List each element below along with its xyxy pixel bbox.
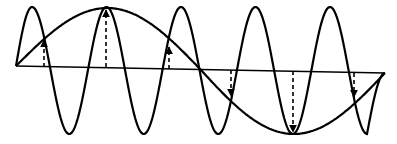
carrier-wave — [16, 7, 385, 134]
wave-diagram — [0, 0, 397, 144]
wave-diagram-canvas — [0, 0, 397, 144]
